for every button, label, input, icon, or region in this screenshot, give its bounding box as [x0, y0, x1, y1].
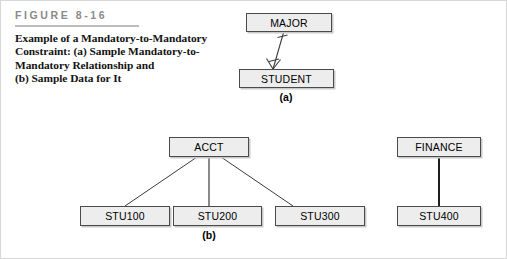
relationship-line-segment: [273, 31, 284, 69]
entity-box-stu300[interactable]: STU300: [275, 206, 365, 226]
entity-box-stu100[interactable]: STU100: [80, 206, 170, 226]
entity-box-stu400[interactable]: STU400: [397, 206, 481, 226]
figure-page: FIGURE 8-16 Example of a Mandatory-to-Ma…: [0, 0, 507, 259]
entity-box-stu200[interactable]: STU200: [173, 206, 262, 226]
relationship-line-acct-stu300: [221, 157, 293, 206]
entity-box-major[interactable]: MAJOR: [246, 13, 332, 32]
figure-label-rule: [15, 25, 139, 27]
figure-caption-line-3: Mandatory Relationship and: [15, 59, 231, 72]
entity-box-student[interactable]: STUDENT: [239, 69, 334, 88]
figure-caption-line-1: Example of a Mandatory-to-Mandatory: [15, 32, 231, 45]
entity-label-stu100: STU100: [105, 210, 145, 222]
figure-caption-line-2: Constraint: (a) Sample Mandatory-to-: [15, 45, 231, 58]
entity-box-acct[interactable]: ACCT: [169, 137, 249, 157]
figure-caption: Example of a Mandatory-to-Mandatory Cons…: [15, 32, 231, 86]
entity-label-stu300: STU300: [300, 210, 340, 222]
entity-label-student: STUDENT: [261, 73, 312, 85]
entity-label-stu400: STU400: [419, 210, 459, 222]
crows-foot-icon: [267, 59, 281, 70]
part-label-a: (a): [266, 91, 306, 103]
entity-label-acct: ACCT: [194, 141, 223, 153]
mandatory-one-tick-icon: [278, 35, 288, 38]
entity-label-stu200: STU200: [198, 210, 238, 222]
entity-label-major: MAJOR: [270, 17, 308, 29]
relationship-line-major-student: [267, 31, 288, 69]
figure-caption-line-4: (b) Sample Data for It: [15, 72, 231, 85]
relationship-lines-acct: [125, 157, 293, 206]
part-label-b: (b): [189, 229, 229, 241]
entity-box-finance[interactable]: FINANCE: [397, 137, 481, 157]
entity-label-finance: FINANCE: [415, 141, 463, 153]
figure-number-label: FIGURE 8-16: [15, 9, 107, 21]
relationship-line-acct-stu100: [125, 157, 197, 206]
mandatory-tick-icon: [269, 59, 279, 62]
